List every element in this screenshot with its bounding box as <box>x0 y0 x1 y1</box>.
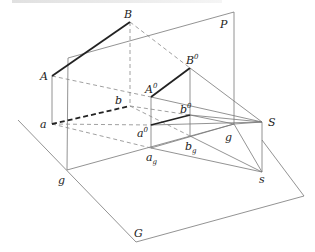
label-b: b <box>115 94 122 107</box>
label-S: S <box>268 116 276 129</box>
label-B0: B0 <box>185 53 199 67</box>
label-a0: a0 <box>137 126 149 140</box>
ray-b0-S <box>190 115 262 122</box>
line-ag-g <box>151 124 234 148</box>
label-B: B <box>123 8 132 21</box>
segment-AB <box>52 22 130 76</box>
label-s: s <box>259 173 265 186</box>
label-a: a <box>40 118 47 131</box>
segment-a0b0 <box>151 115 190 125</box>
perspective-diagram: B A P B0 A0 b b0 a a0 S g g ag bg s G <box>0 0 315 252</box>
label-g-left: g <box>58 174 65 187</box>
label-P: P <box>219 18 228 31</box>
label-ag: ag <box>146 151 158 166</box>
line-b0-bg-g <box>190 115 234 124</box>
segment-ab <box>52 106 130 124</box>
ray-B-S <box>130 22 190 68</box>
ray-ag-s <box>151 148 262 172</box>
label-g-right: g <box>225 131 232 144</box>
label-G: G <box>134 227 143 240</box>
ray-a-S <box>52 124 151 125</box>
label-bg: bg <box>185 140 197 155</box>
ray-A-S <box>52 76 151 97</box>
label-A: A <box>39 70 48 83</box>
